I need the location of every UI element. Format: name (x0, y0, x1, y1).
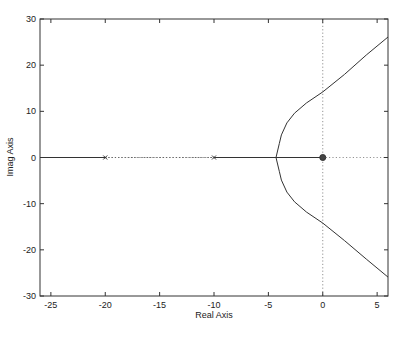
zero-circle-icon (320, 155, 326, 161)
y-tick-label: 30 (26, 14, 36, 24)
x-axis-ticks: -25-20-15-10-505 (44, 19, 379, 310)
x-tick-label: 5 (375, 300, 380, 310)
y-tick-label: 10 (26, 106, 36, 116)
y-tick-label: 20 (26, 60, 36, 70)
y-tick-label: -10 (23, 199, 36, 209)
x-axis-label: Real Axis (195, 310, 233, 320)
y-tick-label: 0 (31, 153, 36, 163)
x-tick-label: -25 (44, 300, 57, 310)
y-tick-label: -30 (23, 291, 36, 301)
root-locus-plot: -25-20-15-10-505 3020100-10-20-30 Real A… (0, 0, 405, 337)
x-tick-label: -5 (264, 300, 272, 310)
x-tick-label: -10 (207, 300, 220, 310)
x-tick-label: -15 (153, 300, 166, 310)
locus-branch-upper (276, 37, 388, 158)
x-tick-label: 0 (320, 300, 325, 310)
y-tick-label: -20 (23, 245, 36, 255)
x-tick-label: -20 (99, 300, 112, 310)
locus-branch-lower (276, 158, 388, 278)
y-axis-label: Imag Axis (5, 137, 15, 177)
